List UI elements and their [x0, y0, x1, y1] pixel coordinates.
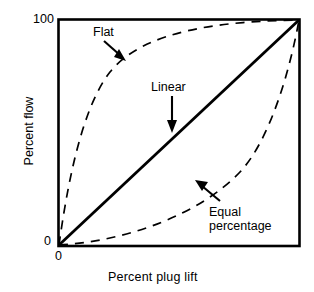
y-axis-max-tick-label: 100 [33, 12, 54, 26]
equal-percentage-label-line1: Equal [209, 205, 272, 219]
y-axis-title: Percent flow [22, 86, 36, 176]
x-axis-title: Percent plug lift [108, 270, 198, 284]
y-axis-min-tick-label: 0 [44, 234, 51, 248]
flat-curve-label: Flat [93, 25, 114, 39]
chart-plot-area [0, 0, 314, 292]
linear-curve-label: Linear [151, 80, 186, 94]
valve-characteristic-chart: 100 0 0 Percent flow Percent plug lift F… [0, 0, 314, 292]
equal-percentage-curve-label: Equal percentage [209, 205, 272, 233]
equal-percentage-label-line2: percentage [209, 219, 272, 233]
x-axis-min-tick-label: 0 [55, 249, 62, 263]
